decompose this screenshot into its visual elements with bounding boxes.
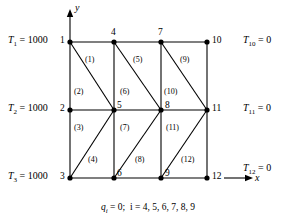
node-dot-6 <box>111 175 116 180</box>
node-dot-10 <box>204 39 209 44</box>
bc-label-T1: T1 = 1000 <box>8 35 48 48</box>
bc-label-T11: T11 = 0 <box>243 103 271 116</box>
node-label-2: 2 <box>60 104 65 114</box>
node-label-10: 10 <box>212 36 222 46</box>
node-label-3: 3 <box>60 172 65 182</box>
bc-label-T10: T10 = 0 <box>243 35 271 48</box>
node-label-7: 7 <box>158 28 163 38</box>
node-label-12: 12 <box>212 172 222 182</box>
y-axis-label: y <box>75 3 79 13</box>
bc-value-T10: 0 <box>266 34 271 45</box>
node-dot-11 <box>204 107 209 112</box>
bc-sub-T1: 1 <box>14 40 18 48</box>
node-dot-12 <box>204 175 209 180</box>
mesh-diagonal-3-5 <box>70 110 114 178</box>
figure-caption: qi = 0; i = 4, 5, 6, 7, 8, 9 <box>0 202 296 215</box>
node-dot-3 <box>67 175 72 180</box>
element-label-2: (2) <box>74 88 83 96</box>
bc-sub-T11: 11 <box>249 108 256 116</box>
node-dot-4 <box>111 39 116 44</box>
node-label-4: 4 <box>111 28 116 38</box>
element-label-4: (4) <box>88 156 97 164</box>
node-dot-2 <box>67 107 72 112</box>
node-label-11: 11 <box>212 104 221 114</box>
node-label-8: 8 <box>165 101 170 111</box>
bc-value-T1: 1000 <box>28 34 48 45</box>
y-axis-arrow <box>67 9 73 42</box>
element-label-11: (11) <box>166 124 179 132</box>
node-dot-8 <box>158 107 163 112</box>
bc-value-T2: 1000 <box>28 102 48 113</box>
mesh-diagonal-1-5 <box>70 42 114 110</box>
node-dot-5 <box>111 107 116 112</box>
fem-mesh-figure: y x 1 2 3 4 5 6 7 8 9 10 11 12 (1) (2) (… <box>0 0 296 223</box>
node-label-5: 5 <box>117 101 122 111</box>
node-label-9: 9 <box>165 169 170 179</box>
element-label-10: (10) <box>164 88 177 96</box>
element-label-7: (7) <box>120 124 129 132</box>
element-label-6: (6) <box>120 88 129 96</box>
bc-sub-T12: 12 <box>249 168 256 176</box>
element-label-5: (5) <box>133 56 142 64</box>
bc-value-T3: 1000 <box>28 170 48 181</box>
bc-value-T12: 0 <box>266 162 271 173</box>
element-label-1: (1) <box>85 56 94 64</box>
caption-text-after: = 0; <box>108 202 126 212</box>
bc-sub-T3: 3 <box>14 176 18 184</box>
bc-label-T12: T12 = 0 <box>243 163 271 176</box>
element-label-12: (12) <box>181 156 194 164</box>
bc-sub-T2: 2 <box>14 108 18 116</box>
caption-index-text: i = 4, 5, 6, 7, 8, 9 <box>130 202 195 212</box>
element-label-8: (8) <box>135 156 144 164</box>
element-label-3: (3) <box>74 124 83 132</box>
bc-label-T3: T3 = 1000 <box>8 171 48 184</box>
bc-sub-T10: 10 <box>249 40 256 48</box>
element-label-9: (9) <box>180 56 189 64</box>
bc-label-T2: T2 = 1000 <box>8 103 48 116</box>
node-label-6: 6 <box>117 169 122 179</box>
node-dot-9 <box>158 175 163 180</box>
bc-value-T11: 0 <box>266 102 271 113</box>
node-dot-7 <box>158 39 163 44</box>
node-label-1: 1 <box>60 36 65 46</box>
